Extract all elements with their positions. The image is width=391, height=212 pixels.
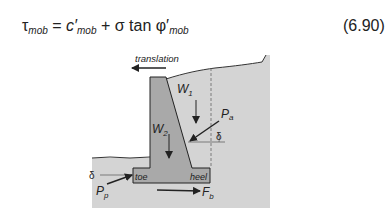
front-ground-surface (92, 157, 150, 158)
delta-p-label: δ (89, 170, 95, 181)
retaining-wall-diagram: translation W1 W2 Pa δ Pp δ Fb toe heel (0, 0, 391, 212)
heel-label: heel (190, 172, 208, 182)
fb-arrow (157, 190, 200, 191)
translation-label: translation (135, 53, 179, 64)
delta-a-label: δ (216, 131, 222, 142)
toe-label: toe (135, 172, 148, 182)
